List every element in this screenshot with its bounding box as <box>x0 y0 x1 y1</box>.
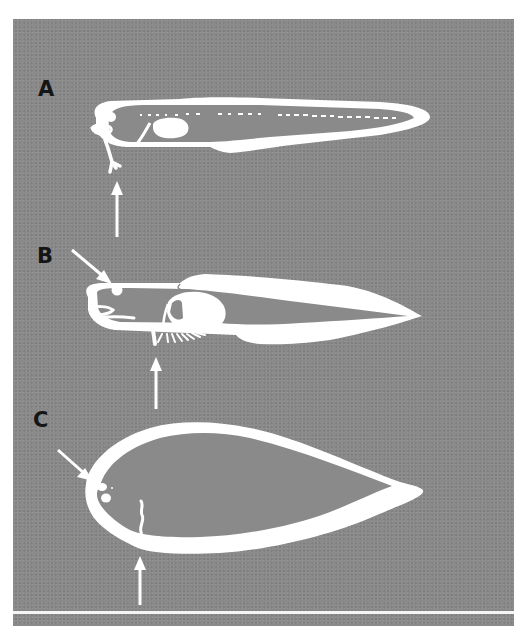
larva-b-ventral-fringe <box>158 333 205 342</box>
larva-c-eye-upper <box>97 483 107 491</box>
larva-a <box>92 97 430 237</box>
arrow-up-icon <box>111 181 123 237</box>
panel-label-b: B <box>37 246 53 267</box>
arrow-down-right-icon <box>72 250 112 284</box>
panel-label-c: C <box>33 410 48 431</box>
larva-c-ventral-knob <box>139 540 146 549</box>
larva-c-eye-lower <box>101 494 111 503</box>
arrow-down-right-icon <box>58 450 93 481</box>
larva-c-eye-dot <box>111 487 113 489</box>
larva-b <box>72 250 422 409</box>
larva-a-gut <box>153 118 189 138</box>
larva-b-ventral-structure <box>153 330 155 344</box>
larva-a-eye <box>106 112 116 122</box>
arrow-up-icon <box>134 556 146 605</box>
larva-c <box>58 422 423 605</box>
panel-label-a: A <box>38 79 54 100</box>
larval-stages-illustration <box>0 0 520 626</box>
larva-b-eye <box>112 285 123 296</box>
arrow-up-icon <box>150 357 162 409</box>
